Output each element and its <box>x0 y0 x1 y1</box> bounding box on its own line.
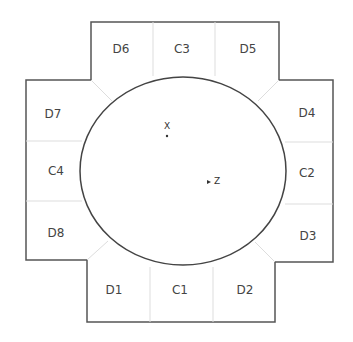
point-z-marker <box>207 180 211 184</box>
region-d8-label: D8 <box>48 226 65 240</box>
region-c2-label: C2 <box>299 166 315 180</box>
region-d1-label: D1 <box>106 283 123 297</box>
dividers <box>26 22 333 322</box>
region-d5-label: D5 <box>240 42 257 56</box>
region-c3-label: C3 <box>174 42 190 56</box>
region-d6-label: D6 <box>113 42 130 56</box>
region-d4-label: D4 <box>299 106 316 120</box>
region-d3-label: D3 <box>300 229 317 243</box>
point-z-label: Z <box>214 176 220 186</box>
region-c4-label: C4 <box>48 164 64 178</box>
region-d2-label: D2 <box>237 283 254 297</box>
outer-outline <box>26 22 333 322</box>
region-c1-label: C1 <box>172 283 188 297</box>
central-circle <box>80 77 286 265</box>
point-x-label: X <box>164 121 170 131</box>
point-x-marker <box>166 135 168 137</box>
region-d7-label: D7 <box>45 107 62 121</box>
